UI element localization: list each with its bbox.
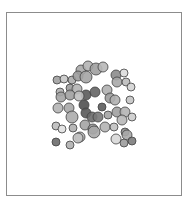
data-point (56, 92, 66, 102)
data-point (127, 83, 135, 91)
data-point (73, 133, 83, 143)
data-point (93, 112, 103, 122)
data-point (111, 134, 121, 144)
data-point (53, 103, 63, 113)
data-point (120, 139, 128, 147)
data-point (128, 113, 136, 121)
data-point (128, 137, 136, 145)
data-point (98, 62, 108, 72)
data-point (104, 111, 112, 119)
data-point (58, 125, 66, 133)
data-point (110, 123, 118, 131)
data-point (100, 122, 110, 132)
data-point (98, 103, 106, 111)
data-point (65, 90, 75, 100)
data-point (80, 71, 92, 83)
data-point (110, 95, 120, 105)
scatter-plot-area (0, 0, 189, 205)
data-point (66, 111, 78, 123)
data-point (88, 126, 100, 138)
data-point (60, 75, 68, 83)
data-point (126, 96, 134, 104)
data-point (66, 141, 74, 149)
data-point (90, 87, 100, 97)
data-point (117, 115, 127, 125)
data-point (112, 77, 122, 87)
data-point (120, 69, 128, 77)
data-point (52, 138, 60, 146)
data-point (74, 91, 84, 101)
data-point (69, 124, 77, 132)
